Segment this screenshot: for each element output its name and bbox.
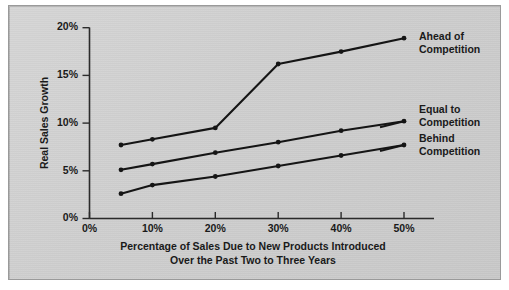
series-labels: Ahead ofCompetitionEqual toCompetitionBe… (380, 30, 480, 157)
data-point-marker (213, 126, 218, 131)
series-label-line-2: Competition (419, 43, 480, 55)
series-line (121, 38, 404, 145)
data-point-marker (119, 143, 124, 148)
y-axis-title-text: Real Sales Growth (38, 77, 50, 169)
y-axis-tick-label: 20% (57, 20, 79, 32)
x-axis-title: Percentage of Sales Due to New Products … (120, 240, 385, 266)
data-point-marker (339, 128, 344, 133)
x-axis-title-line-2: Over the Past Two to Three Years (170, 254, 336, 266)
data-point-marker (150, 183, 155, 188)
series-label-line-1: Equal to (419, 103, 460, 115)
line-chart: 0%5%10%15%20% 0%10%20%30%40%50% Real Sal… (0, 0, 509, 290)
y-axis-ticks (83, 28, 90, 219)
data-point-marker (339, 49, 344, 54)
y-axis-title: Real Sales Growth (38, 77, 50, 169)
data-point-marker (276, 62, 281, 67)
axes (90, 28, 435, 219)
data-point-marker (276, 140, 281, 145)
series-label-3: BehindCompetition (380, 132, 480, 157)
x-axis-title-line-1: Percentage of Sales Due to New Products … (120, 240, 385, 252)
data-point-marker (150, 162, 155, 167)
data-point-marker (119, 167, 124, 172)
data-point-marker (213, 174, 218, 179)
data-point-marker (402, 36, 407, 41)
x-axis-tick-label: 30% (268, 222, 290, 234)
series-label-line-2: Competition (419, 116, 480, 128)
y-axis-tick-label: 10% (57, 116, 79, 128)
y-axis-tick-label: 5% (63, 164, 79, 176)
series-label-1: Ahead ofCompetition (419, 30, 480, 55)
x-axis-tick-label: 40% (331, 222, 353, 234)
series-label-line-2: Competition (419, 145, 480, 157)
series-1 (119, 36, 407, 148)
y-axis-tick-label: 0% (63, 211, 79, 223)
series-label-line-1: Ahead of (419, 30, 464, 42)
y-axis-tick-label: 15% (57, 68, 79, 80)
chart-figure: 0%5%10%15%20% 0%10%20%30%40%50% Real Sal… (0, 0, 509, 290)
x-axis-tick-label: 20% (205, 222, 227, 234)
data-point-marker (213, 150, 218, 155)
series-line (121, 121, 404, 170)
series-line (121, 145, 404, 194)
data-point-marker (339, 153, 344, 158)
series-3 (119, 143, 407, 197)
data-point-marker (276, 164, 281, 169)
data-point-marker (119, 191, 124, 196)
x-axis-tick-label: 50% (393, 222, 415, 234)
y-axis-tick-labels: 0%5%10%15%20% (57, 20, 79, 223)
x-axis-tick-label: 10% (142, 222, 164, 234)
x-axis-tick-label: 0% (82, 222, 98, 234)
x-axis-ticks (90, 212, 405, 219)
data-point-marker (150, 137, 155, 142)
x-axis-tick-labels: 0%10%20%30%40%50% (82, 222, 415, 234)
series-label-2: Equal toCompetition (380, 103, 480, 128)
series-group (119, 36, 407, 196)
series-label-line-1: Behind (419, 132, 455, 144)
series-2 (119, 119, 407, 172)
